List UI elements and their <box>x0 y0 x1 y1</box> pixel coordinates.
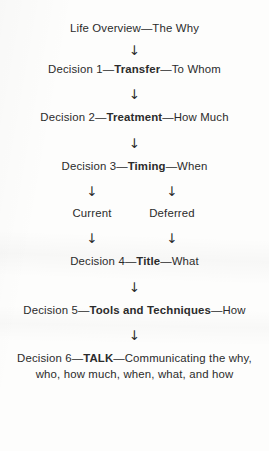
em-dash: — <box>162 111 173 123</box>
node-decision-3-keyword: Timing <box>128 160 166 172</box>
em-dash: — <box>125 255 136 267</box>
node-decision-4-suffix: What <box>172 255 199 267</box>
arrow-deferred-to-decision4: ↓ <box>132 225 212 250</box>
node-decision-2: Decision 2—Treatment—How Much <box>0 110 269 126</box>
node-decision-1-keyword: Transfer <box>114 63 160 75</box>
node-decision-5-suffix: How <box>222 304 245 316</box>
node-decision-6-keyword: TALK <box>83 352 113 364</box>
down-arrow-icon: ↓ <box>166 185 177 199</box>
em-dash: — <box>103 63 114 75</box>
node-decision-6: Decision 6—TALK—Communicating the why, w… <box>0 351 269 382</box>
down-arrow-icon: ↓ <box>129 281 140 295</box>
em-dash: — <box>116 160 127 172</box>
node-branch-current: Current <box>52 203 132 223</box>
node-decision-4-keyword: Title <box>136 255 160 267</box>
node-decision-1-suffix: To Whom <box>172 63 221 75</box>
em-dash: — <box>160 63 171 75</box>
em-dash: — <box>72 352 83 364</box>
down-arrow-icon: ↓ <box>86 232 97 246</box>
node-decision-3: Decision 3—Timing—When <box>0 159 269 175</box>
node-decision-2-suffix: How Much <box>174 111 229 123</box>
node-branch-deferred: Deferred <box>132 203 212 223</box>
arrow-row-decision3-to-branches: ↓ ↓ <box>0 178 269 203</box>
arrow-decision2-to-decision3: ↓ <box>0 130 269 155</box>
arrow-overview-to-decision1: ↓ <box>0 37 269 62</box>
down-arrow-icon: ↓ <box>129 44 140 58</box>
em-dash: — <box>211 304 222 316</box>
node-life-overview-prefix: Life Overview <box>70 22 141 34</box>
down-arrow-icon: ↓ <box>129 329 140 343</box>
down-arrow-icon: ↓ <box>129 137 140 151</box>
node-life-overview: Life Overview—The Why <box>0 21 269 37</box>
arrow-decision3-to-current: ↓ <box>52 178 132 203</box>
node-decision-5-prefix: Decision 5 <box>23 304 78 316</box>
arrow-row-branches-to-decision4: ↓ ↓ <box>0 225 269 250</box>
node-decision-1: Decision 1—Transfer—To Whom <box>0 62 269 78</box>
em-dash: — <box>166 160 177 172</box>
arrow-decision5-to-decision6: ↓ <box>0 322 269 347</box>
em-dash: — <box>141 22 152 34</box>
node-decision-3-suffix: When <box>177 160 207 172</box>
node-decision-5: Decision 5—Tools and Techniques—How <box>0 303 269 319</box>
node-decision-5-keyword: Tools and Techniques <box>89 304 211 316</box>
node-life-overview-suffix: The Why <box>152 22 199 34</box>
em-dash: — <box>160 255 171 267</box>
em-dash: — <box>95 111 106 123</box>
arrow-decision1-to-decision2: ↓ <box>0 81 269 106</box>
node-decision-6-prefix: Decision 6 <box>17 352 72 364</box>
decision-flow-diagram: Life Overview—The Why ↓ Decision 1—Trans… <box>0 0 269 382</box>
node-decision-4: Decision 4—Title—What <box>0 254 269 270</box>
arrow-current-to-decision4: ↓ <box>52 225 132 250</box>
down-arrow-icon: ↓ <box>166 232 177 246</box>
node-decision-1-prefix: Decision 1 <box>48 63 103 75</box>
down-arrow-icon: ↓ <box>86 185 97 199</box>
node-decision-3-prefix: Decision 3 <box>62 160 117 172</box>
down-arrow-icon: ↓ <box>129 88 140 102</box>
arrow-decision3-to-deferred: ↓ <box>132 178 212 203</box>
em-dash: — <box>113 352 124 364</box>
node-decision-2-keyword: Treatment <box>106 111 162 123</box>
node-decision-4-prefix: Decision 4 <box>70 255 125 267</box>
em-dash: — <box>78 304 89 316</box>
arrow-decision4-to-decision5: ↓ <box>0 274 269 299</box>
node-decision-2-prefix: Decision 2 <box>40 111 95 123</box>
branch-labels-row: Current Deferred <box>0 203 269 223</box>
